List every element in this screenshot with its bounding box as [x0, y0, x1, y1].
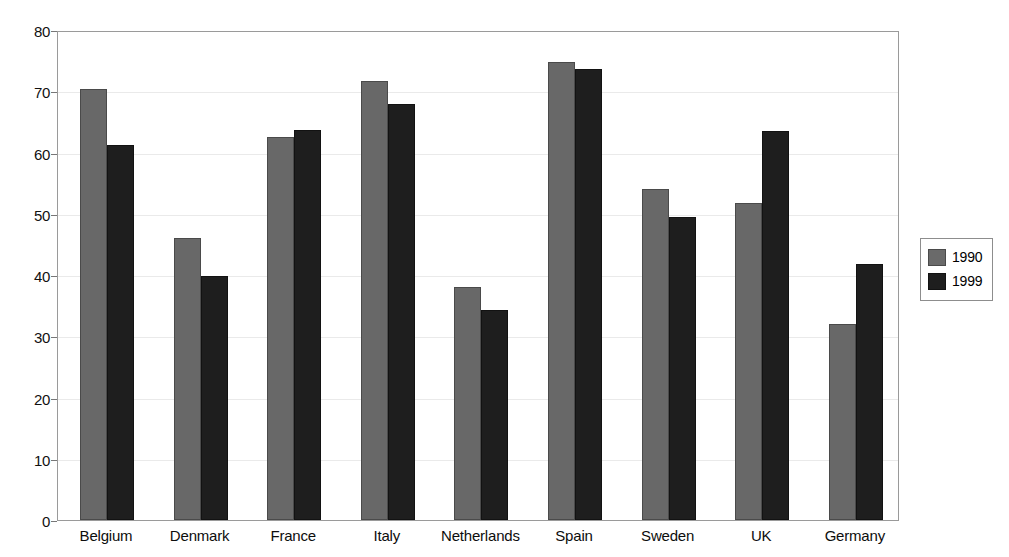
x-axis-tick-label: Sweden [641, 527, 694, 544]
x-axis-tick-label: Germany [825, 527, 885, 544]
bar-germany-1990 [829, 324, 856, 520]
bar-chart: 01020304050607080 BelgiumDenmarkFranceIt… [0, 0, 1009, 557]
y-axis-tick-label: 0 [0, 513, 50, 530]
y-axis-tick-label: 40 [0, 268, 50, 285]
bar-france-1999 [294, 130, 321, 520]
y-axis-tick-label: 80 [0, 23, 50, 40]
bar-sweden-1990 [642, 189, 669, 520]
legend-item-1990: 1990 [928, 245, 992, 269]
legend-label: 1999 [952, 273, 982, 289]
y-axis-tick-label: 60 [0, 145, 50, 162]
bar-uk-1990 [735, 203, 762, 520]
y-axis-tick-label: 30 [0, 329, 50, 346]
x-axis-tick-label: Netherlands [441, 527, 520, 544]
x-axis-tick-label: Italy [374, 527, 401, 544]
x-axis-tick-label: Belgium [80, 527, 133, 544]
bar-sweden-1999 [669, 217, 696, 520]
bar-spain-1990 [548, 62, 575, 520]
legend-swatch-icon [928, 273, 946, 290]
bar-italy-1999 [388, 104, 415, 521]
legend-item-1999: 1999 [928, 269, 992, 293]
y-axis-tick-label: 70 [0, 84, 50, 101]
bar-netherlands-1990 [454, 287, 481, 520]
bar-uk-1999 [762, 131, 789, 520]
x-axis-tick-label: France [270, 527, 316, 544]
bar-denmark-1999 [201, 276, 228, 520]
plot-area [57, 31, 899, 521]
x-axis-tick-label: UK [751, 527, 771, 544]
bar-italy-1990 [361, 81, 388, 520]
bar-belgium-1999 [107, 145, 134, 520]
gridline [58, 92, 898, 93]
legend-label: 1990 [952, 249, 982, 265]
y-axis-tick-label: 10 [0, 451, 50, 468]
x-axis-tick-label: Denmark [170, 527, 229, 544]
bar-france-1990 [267, 137, 294, 520]
bar-netherlands-1999 [481, 310, 508, 520]
legend-swatch-icon [928, 249, 946, 266]
bar-spain-1999 [575, 69, 602, 520]
x-axis-tick-label: Spain [555, 527, 592, 544]
y-axis-tick-label: 50 [0, 206, 50, 223]
y-axis-tick-mark [51, 521, 57, 522]
bar-belgium-1990 [80, 89, 107, 520]
bar-germany-1999 [856, 264, 883, 520]
y-axis-tick-label: 20 [0, 390, 50, 407]
bar-denmark-1990 [174, 238, 201, 520]
chart-legend: 19901999 [920, 238, 993, 301]
